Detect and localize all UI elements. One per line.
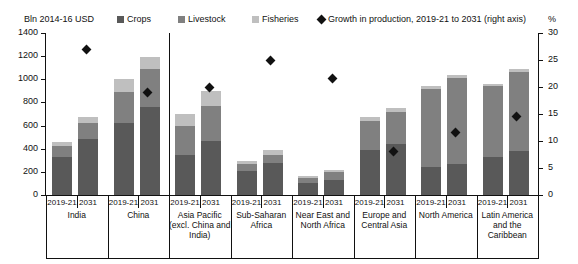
y-axis-right-tick	[539, 168, 543, 169]
bar-2019-21	[421, 86, 441, 195]
bar-segment-fisheries	[175, 114, 195, 126]
y-axis-left-tick	[41, 33, 45, 34]
x-axis-region-label: Europe and Central Asia	[354, 210, 416, 230]
x-axis-minor-tick	[77, 196, 78, 208]
growth-diamond-marker	[327, 74, 337, 84]
bar-segment-crops	[298, 183, 318, 195]
bar-2031	[140, 57, 160, 195]
bar-segment-livestock	[263, 155, 283, 163]
x-axis-region-label: Latin America and the Caribbean	[477, 210, 539, 240]
legend-unit-label: Bln 2014-16 USD	[24, 14, 94, 24]
y-axis-left-tick-label: 200	[4, 166, 38, 176]
legend-label-crops: Crops	[127, 14, 151, 24]
x-axis-period-label: 2031	[437, 198, 477, 207]
x-axis-region-label: Near East and North Africa	[292, 210, 354, 230]
bar-2019-21	[175, 114, 195, 195]
x-axis-group-divider	[415, 196, 416, 258]
bar-segment-livestock	[421, 89, 441, 168]
y-axis-left-tick	[41, 79, 45, 80]
x-axis-group-divider	[354, 196, 355, 258]
growth-diamond-marker	[204, 82, 214, 92]
x-axis-group-divider	[169, 196, 170, 258]
growth-diamond-marker	[81, 44, 91, 54]
growth-diamond-marker	[266, 55, 276, 65]
bar-segment-crops	[421, 167, 441, 195]
x-axis-minor-tick	[261, 196, 262, 208]
plot-area	[46, 33, 538, 195]
y-axis-left-tick-label: 1400	[4, 27, 38, 37]
legend-item-crops: Crops	[117, 14, 151, 24]
x-axis-period-label: 2031	[314, 198, 354, 207]
bar-segment-livestock	[114, 92, 134, 123]
x-axis-period-label: 2031	[499, 198, 539, 207]
y-axis-right-tick	[539, 114, 543, 115]
bar-segment-fisheries	[201, 91, 221, 105]
x-axis-period-label: 2031	[376, 198, 416, 207]
x-axis-group-divider	[108, 196, 109, 258]
bar-segment-crops	[52, 157, 72, 195]
bar-2019-21	[52, 142, 72, 195]
legend-diamond-growth-icon	[317, 14, 327, 24]
y-axis-right-tick-label: 25	[548, 54, 574, 64]
legend-swatch-crops-icon	[117, 16, 124, 23]
x-axis-labels: 2019-212031India2019-212031China2019-212…	[0, 196, 578, 264]
y-axis-left-tick	[41, 126, 45, 127]
y-axis-right-tick	[539, 87, 543, 88]
bar-2019-21	[237, 161, 257, 195]
bar-2019-21	[483, 84, 503, 195]
y-axis-left-tick-label: 1000	[4, 73, 38, 83]
bar-segment-crops	[447, 164, 467, 195]
y-axis-right-tick-label: 15	[548, 108, 574, 118]
y-axis-right-tick-label: 30	[548, 27, 574, 37]
x-axis-group-divider	[292, 196, 293, 258]
legend-item-livestock: Livestock	[178, 14, 226, 24]
bar-segment-livestock	[201, 106, 221, 141]
y-axis-right-tick	[539, 33, 543, 34]
bar-2019-21	[114, 79, 134, 195]
bar-segment-crops	[483, 157, 503, 195]
y-axis-left-tick-label: 400	[4, 143, 38, 153]
bar-segment-livestock	[386, 112, 406, 144]
x-axis-minor-tick	[507, 196, 508, 208]
x-axis-region-label: Asia Pacific (excl. China and India)	[169, 210, 231, 240]
bar-segment-fisheries	[114, 79, 134, 92]
chart-bottom-frame	[46, 258, 539, 259]
y-axis-left-tick	[41, 149, 45, 150]
x-axis-minor-tick	[138, 196, 139, 208]
y-axis-right-tick	[539, 141, 543, 142]
bar-segment-livestock	[360, 121, 380, 150]
y-axis-left-tick-label: 600	[4, 120, 38, 130]
major-group-separator	[169, 33, 170, 195]
x-axis-minor-tick	[384, 196, 385, 208]
y-axis-right-tick	[539, 60, 543, 61]
x-axis-period-label: 2031	[253, 198, 293, 207]
x-axis-minor-tick	[323, 196, 324, 208]
x-axis-period-label: 2031	[68, 198, 108, 207]
bar-2019-21	[360, 117, 380, 195]
bar-segment-crops	[237, 171, 257, 195]
y-axis-right-tick-label: 10	[548, 135, 574, 145]
legend-label-growth: Growth in production, 2019-21 to 2031 (r…	[328, 14, 526, 24]
bar-segment-crops	[201, 141, 221, 195]
bar-segment-crops	[140, 107, 160, 195]
bar-2031	[78, 117, 98, 195]
legend-swatch-livestock-icon	[178, 16, 185, 23]
x-axis-region-label: North America	[415, 210, 477, 220]
legend-label-fisheries: Fisheries	[262, 14, 299, 24]
bar-segment-livestock	[447, 78, 467, 164]
x-axis-minor-tick	[446, 196, 447, 208]
y-axis-right-tick-label: 20	[548, 81, 574, 91]
right-axis-unit-label: %	[548, 14, 556, 24]
x-axis-group-divider	[477, 196, 478, 258]
bar-2031	[201, 91, 221, 195]
bar-segment-livestock	[483, 86, 503, 157]
legend-swatch-fisheries-icon	[252, 16, 259, 23]
y-axis-left-tick	[41, 102, 45, 103]
chart-legend: Bln 2014-16 USD Crops Livestock Fisherie…	[0, 14, 578, 28]
x-axis-group-divider	[231, 196, 232, 258]
bar-2031	[263, 150, 283, 195]
bar-segment-livestock	[52, 146, 72, 156]
bar-segment-livestock	[324, 172, 344, 180]
bar-segment-crops	[360, 150, 380, 195]
bar-segment-livestock	[140, 69, 160, 107]
